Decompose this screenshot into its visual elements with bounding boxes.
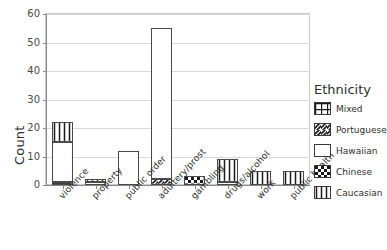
y-tick-label: 10 <box>14 152 40 162</box>
legend-swatch <box>314 123 331 136</box>
y-tick-label: 40 <box>14 66 40 76</box>
legend-item[interactable]: Mixed <box>314 102 363 115</box>
legend-item[interactable]: Chinese <box>314 165 372 178</box>
y-tick-label: 30 <box>14 95 40 105</box>
legend-label: Chinese <box>336 167 372 177</box>
y-tick-label: 0 <box>14 180 40 190</box>
y-tick-label: 60 <box>14 9 40 19</box>
legend-title: Ethnicity <box>314 82 371 97</box>
bar-segment <box>52 142 72 182</box>
legend-swatch <box>314 186 331 199</box>
gridline <box>46 43 310 44</box>
legend-item[interactable]: Caucasian <box>314 186 382 199</box>
legend-label: Portuguese <box>336 125 387 135</box>
y-tick-label: 20 <box>14 123 40 133</box>
bar-segment <box>52 122 72 142</box>
gridline <box>46 128 310 129</box>
gridline <box>46 100 310 101</box>
gridline <box>46 157 310 158</box>
gridline <box>46 14 310 15</box>
legend-item[interactable]: Hawaiian <box>314 144 377 157</box>
legend-label: Mixed <box>336 104 363 114</box>
legend-label: Hawaiian <box>336 146 377 156</box>
legend-item[interactable]: Portuguese <box>314 123 387 136</box>
legend-swatch <box>314 165 331 178</box>
legend-label: Caucasian <box>336 188 382 198</box>
legend-swatch <box>314 144 331 157</box>
legend-swatch <box>314 102 331 115</box>
gridline <box>46 71 310 72</box>
y-tick-label: 50 <box>14 38 40 48</box>
plot-area <box>45 13 310 185</box>
y-axis-spine <box>46 14 47 186</box>
